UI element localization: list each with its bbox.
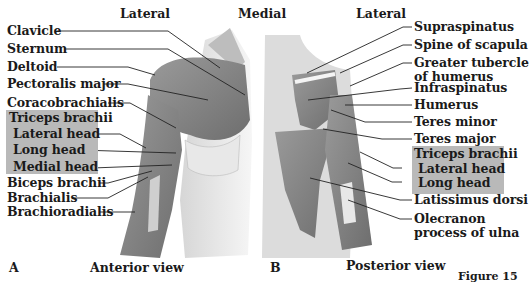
label-coracobrachialis: Coracobrachialis — [7, 96, 124, 110]
label-brachioradialis: Brachioradialis — [7, 205, 113, 219]
label-supraspinatus: Supraspinatus — [414, 20, 514, 34]
label-lateral-head-anterior: Lateral head — [13, 127, 100, 141]
label-medial-head: Medial head — [13, 160, 98, 174]
label-process-of-ulna: process of ulna — [414, 226, 519, 240]
label-humerus: Humerus — [414, 98, 478, 112]
label-triceps-brachii-posterior: Triceps brachii — [414, 147, 518, 161]
caption-anterior-view: Anterior view — [90, 260, 184, 275]
label-long-head-anterior: Long head — [13, 143, 85, 157]
label-long-head-posterior: Long head — [418, 176, 490, 190]
header-lateral-posterior: Lateral — [356, 6, 406, 21]
header-lateral-anterior: Lateral — [120, 6, 170, 21]
label-spine-of-scapula: Spine of scapula — [414, 38, 528, 52]
label-triceps-brachii-anterior: Triceps brachii — [9, 111, 113, 125]
panel-letter-a: A — [9, 260, 19, 275]
label-olecranon: Olecranon — [414, 212, 486, 226]
label-teres-minor: Teres minor — [414, 115, 497, 129]
caption-posterior-view: Posterior view — [346, 258, 446, 273]
panel-letter-b: B — [270, 260, 281, 275]
figure-number-fragment: Figure 15 — [458, 270, 518, 283]
header-medial: Medial — [238, 6, 286, 21]
label-biceps-brachii: Biceps brachii — [7, 176, 106, 190]
label-lateral-head-posterior: Lateral head — [418, 162, 505, 176]
label-teres-major: Teres major — [414, 132, 495, 146]
label-pectoralis-major: Pectoralis major — [7, 77, 120, 91]
label-sternum: Sternum — [7, 42, 67, 56]
label-clavicle: Clavicle — [7, 24, 61, 38]
label-infraspinatus: Infraspinatus — [414, 81, 507, 95]
label-deltoid: Deltoid — [7, 60, 57, 74]
anterior-torso — [120, 28, 252, 258]
label-latissimus-dorsi: Latissimus dorsi — [414, 193, 528, 207]
label-greater-tubercle: Greater tubercle — [414, 56, 529, 70]
label-brachialis: Brachialis — [7, 191, 77, 205]
